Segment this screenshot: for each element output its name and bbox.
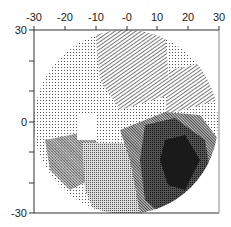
y-tick-label: 30 — [15, 24, 27, 36]
field-map — [34, 30, 219, 213]
y-tick-labels: 30 0 -30 — [11, 24, 27, 219]
blind-spot — [77, 113, 97, 140]
x-tick-label: -0 — [122, 11, 132, 23]
x-tick-labels: -30 -20 -10 -0 10 20 30 — [26, 11, 225, 23]
y-tick-label: -30 — [11, 207, 27, 219]
x-tick-label: 30 — [213, 11, 225, 23]
y-tick-label: 0 — [21, 116, 27, 128]
visual-field-plot: -30 -20 -10 -0 10 20 30 30 0 -30 — [0, 0, 231, 227]
x-tick-label: -30 — [26, 11, 42, 23]
x-tick-label: -10 — [88, 11, 104, 23]
x-tick-label: 20 — [182, 11, 194, 23]
x-tick-label: 10 — [151, 11, 163, 23]
x-tick-label: -20 — [57, 11, 73, 23]
